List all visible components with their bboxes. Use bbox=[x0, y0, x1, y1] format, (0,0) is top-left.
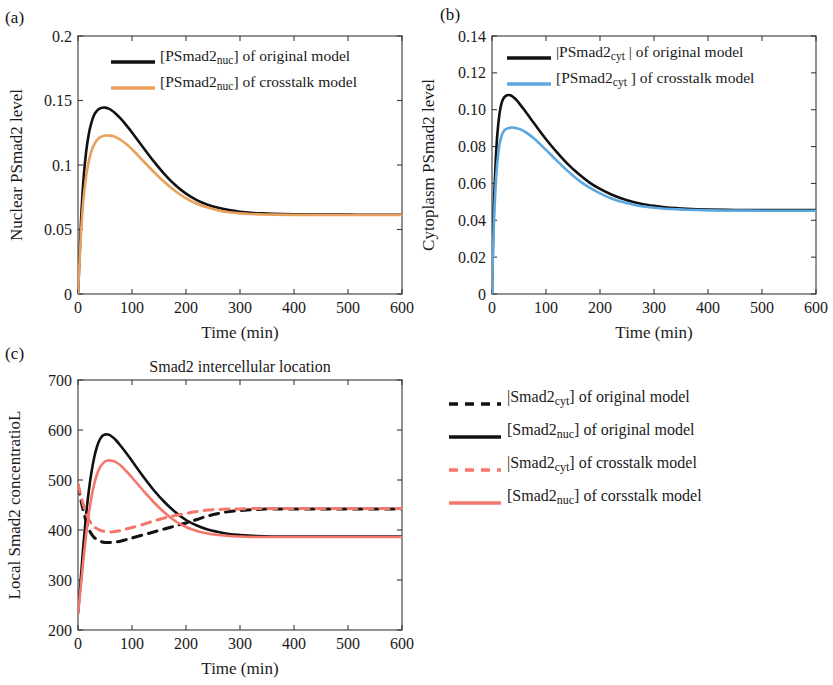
legend-label: [PSmad2cyt ] of crosstalk model bbox=[556, 69, 754, 88]
panel-b-tag: (b) bbox=[440, 5, 460, 25]
svg-text:600: 600 bbox=[48, 422, 72, 439]
legend-label: [Smad2nuc] of original model bbox=[507, 421, 695, 442]
legend-item: |Smad2cyt] of original model bbox=[448, 382, 702, 415]
panel-c-tag: (c) bbox=[5, 344, 24, 364]
svg-text:200: 200 bbox=[174, 635, 198, 652]
svg-text:0.10: 0.10 bbox=[458, 101, 486, 118]
svg-text:0.2: 0.2 bbox=[52, 28, 72, 45]
svg-text:600: 600 bbox=[390, 635, 414, 652]
svg-text:0: 0 bbox=[488, 299, 496, 316]
legend-label: [Smad2nuc] of corsstalk model bbox=[507, 487, 702, 508]
svg-text:Nuclear PSmad2 level: Nuclear PSmad2 level bbox=[7, 89, 26, 241]
svg-text:600: 600 bbox=[390, 299, 414, 316]
svg-text:300: 300 bbox=[228, 299, 252, 316]
legend-item: |Smad2cyt] of crosstalk model bbox=[448, 448, 702, 481]
svg-text:0.1: 0.1 bbox=[52, 157, 72, 174]
legend-item: [Smad2nuc] of original model bbox=[448, 415, 702, 448]
series-line bbox=[78, 460, 402, 613]
svg-text:Time (min): Time (min) bbox=[201, 659, 278, 678]
series-line bbox=[78, 108, 402, 294]
panel-b-legend: |PSmad2cyt | of original model[PSmad2cyt… bbox=[506, 40, 754, 92]
svg-text:400: 400 bbox=[282, 635, 306, 652]
svg-text:300: 300 bbox=[642, 299, 666, 316]
svg-text:700: 700 bbox=[48, 372, 72, 389]
svg-text:0.14: 0.14 bbox=[458, 28, 486, 45]
legend-label: [PSmad2nuc] of original model bbox=[160, 47, 350, 66]
legend-item: [PSmad2nuc] of crosstalk model bbox=[110, 70, 357, 96]
svg-text:500: 500 bbox=[336, 635, 360, 652]
legend-label: |Smad2cyt] of original model bbox=[507, 388, 690, 409]
svg-text:600: 600 bbox=[804, 299, 828, 316]
svg-text:100: 100 bbox=[534, 299, 558, 316]
svg-text:Local Smad2 concentratioL: Local Smad2 concentratioL bbox=[5, 411, 24, 600]
legend-item: |PSmad2cyt | of original model bbox=[506, 40, 754, 66]
series-line bbox=[492, 128, 816, 294]
svg-text:400: 400 bbox=[282, 299, 306, 316]
legend-label: |PSmad2cyt | of original model bbox=[556, 43, 743, 62]
series-line bbox=[78, 434, 402, 613]
svg-text:400: 400 bbox=[696, 299, 720, 316]
legend-label: [PSmad2nuc] of crosstalk model bbox=[160, 73, 357, 92]
svg-text:Smad2 intercellular location: Smad2 intercellular location bbox=[149, 358, 330, 375]
svg-text:0.05: 0.05 bbox=[44, 221, 72, 238]
svg-text:0: 0 bbox=[64, 286, 72, 303]
panel-c-legend: |Smad2cyt] of original model[Smad2nuc] o… bbox=[448, 382, 702, 514]
legend-item: [Smad2nuc] of corsstalk model bbox=[448, 481, 702, 514]
svg-text:500: 500 bbox=[750, 299, 774, 316]
svg-text:100: 100 bbox=[120, 635, 144, 652]
figure-root: (a) 010020030040050060000.050.10.150.2Ti… bbox=[0, 0, 833, 685]
panel-a: (a) 010020030040050060000.050.10.150.2Ti… bbox=[0, 0, 420, 345]
panel-a-legend: [PSmad2nuc] of original model[PSmad2nuc]… bbox=[110, 44, 357, 96]
panel-c: (c) 010020030040050060020030040050060070… bbox=[0, 340, 420, 685]
legend-label: |Smad2cyt] of crosstalk model bbox=[507, 454, 697, 475]
svg-text:400: 400 bbox=[48, 522, 72, 539]
svg-text:300: 300 bbox=[228, 635, 252, 652]
series-line bbox=[78, 135, 402, 294]
svg-text:0.08: 0.08 bbox=[458, 138, 486, 155]
panel-b: (b) 010020030040050060000.020.040.060.08… bbox=[420, 0, 833, 345]
legend-item: [PSmad2nuc] of original model bbox=[110, 44, 357, 70]
svg-text:0.12: 0.12 bbox=[458, 64, 486, 81]
svg-text:0.04: 0.04 bbox=[458, 212, 486, 229]
legend-item: [PSmad2cyt ] of crosstalk model bbox=[506, 66, 754, 92]
svg-text:0: 0 bbox=[478, 286, 486, 303]
svg-text:Time (min): Time (min) bbox=[615, 323, 692, 342]
svg-text:500: 500 bbox=[336, 299, 360, 316]
series-line bbox=[78, 484, 402, 532]
svg-text:0.15: 0.15 bbox=[44, 92, 72, 109]
panel-a-tag: (a) bbox=[5, 8, 24, 28]
plot-frame bbox=[78, 380, 402, 630]
svg-text:0: 0 bbox=[74, 635, 82, 652]
svg-text:100: 100 bbox=[120, 299, 144, 316]
svg-text:200: 200 bbox=[588, 299, 612, 316]
svg-text:300: 300 bbox=[48, 572, 72, 589]
svg-text:0: 0 bbox=[74, 299, 82, 316]
series-line bbox=[492, 95, 816, 294]
svg-text:0.06: 0.06 bbox=[458, 175, 486, 192]
svg-text:200: 200 bbox=[174, 299, 198, 316]
svg-text:200: 200 bbox=[48, 622, 72, 639]
svg-text:Cytoplasm PSmad2 level: Cytoplasm PSmad2 level bbox=[420, 79, 438, 251]
svg-text:500: 500 bbox=[48, 472, 72, 489]
svg-text:0.02: 0.02 bbox=[458, 249, 486, 266]
panel-c-plot: 0100200300400500600200300400500600700Sma… bbox=[0, 340, 420, 685]
